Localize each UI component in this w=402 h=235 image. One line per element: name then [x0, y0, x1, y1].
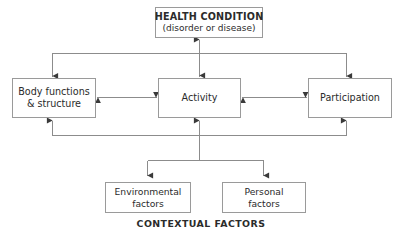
node-body-functions-line1: Body functions [18, 86, 89, 98]
node-activity: Activity [158, 78, 241, 118]
node-environmental-factors-line1: Environmental [115, 186, 182, 197]
node-health-condition: HEALTH CONDITION (disorder or disease) [155, 7, 263, 38]
connector-contextual-bus-upper [53, 121, 347, 136]
connector-contextual-stem [148, 136, 264, 176]
node-health-condition-subtitle: (disorder or disease) [162, 23, 255, 34]
node-activity-label: Activity [182, 92, 218, 104]
node-personal-factors: Personal factors [222, 182, 306, 213]
node-personal-factors-line2: factors [248, 198, 280, 209]
node-environmental-factors: Environmental factors [105, 182, 191, 213]
node-health-condition-title: HEALTH CONDITION [155, 11, 264, 23]
icf-model-diagram: HEALTH CONDITION (disorder or disease) B… [0, 0, 402, 235]
node-participation-label: Participation [320, 92, 380, 104]
node-environmental-factors-line2: factors [132, 198, 164, 209]
node-body-functions-structure: Body functions & structure [12, 78, 96, 118]
node-body-functions-line2: & structure [27, 98, 81, 110]
node-personal-factors-line1: Personal [244, 186, 283, 197]
contextual-factors-caption: CONTEXTUAL FACTORS [0, 218, 402, 229]
node-participation: Participation [308, 78, 392, 118]
connector-health-bus [53, 54, 347, 77]
